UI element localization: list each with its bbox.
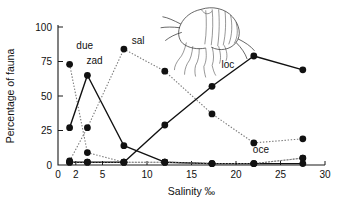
y-tick-label: 25 (41, 125, 53, 136)
data-point-loc (209, 83, 216, 90)
data-point-loc (250, 53, 257, 60)
data-point-loc (161, 122, 168, 129)
x-tick-label: 10 (141, 169, 153, 180)
x-tick-label: 15 (186, 169, 198, 180)
series-label-sal: sal (132, 35, 145, 46)
data-point-oce (121, 159, 128, 166)
data-point-zad (121, 142, 128, 149)
data-point-zad (66, 124, 73, 131)
data-point-oce (209, 160, 216, 167)
x-tick-label: 20 (230, 169, 242, 180)
y-tick-label: 100 (35, 22, 52, 33)
series-labels: duezadsallococe (76, 35, 269, 155)
y-tick-label: 50 (41, 91, 53, 102)
data-point-oce (66, 159, 73, 166)
x-tick-label: 30 (319, 169, 331, 180)
x-tick-label: 0 (55, 169, 61, 180)
series-label-loc: loc (222, 59, 235, 70)
data-point-sal (161, 68, 168, 75)
x-axis-title: Salinity ‰ (168, 185, 216, 197)
y-tick-label: 75 (41, 56, 53, 67)
data-point-oce (161, 159, 168, 166)
data-point-sal (209, 111, 216, 118)
chart-figure: 02510152025300255075100Salinity ‰Percent… (0, 0, 337, 205)
data-point-zad (84, 72, 91, 79)
y-tick-label: 0 (46, 160, 52, 171)
data-point-sal (299, 135, 306, 142)
data-point-oce (84, 159, 91, 166)
data-point-due (84, 149, 91, 156)
data-point-sal (121, 46, 128, 53)
data-point-oce (299, 155, 306, 162)
data-point-sal (84, 124, 91, 131)
x-tick-label: 25 (275, 169, 287, 180)
y-axis-title: Percentage of fauna (4, 49, 16, 144)
axes: 02510152025300255075100Salinity ‰Percent… (4, 22, 331, 197)
amphipod-illustration (161, 8, 255, 78)
x-tick-label: 2 (73, 169, 79, 180)
series-label-oce: oce (253, 144, 270, 155)
data-point-loc (299, 66, 306, 73)
data-point-oce (250, 160, 257, 167)
data-point-due (66, 61, 73, 68)
x-tick-label: 5 (100, 169, 106, 180)
series-label-due: due (76, 40, 93, 51)
series-label-zad: zad (86, 55, 102, 66)
chart-plot-area: 02510152025300255075100Salinity ‰Percent… (0, 0, 337, 205)
